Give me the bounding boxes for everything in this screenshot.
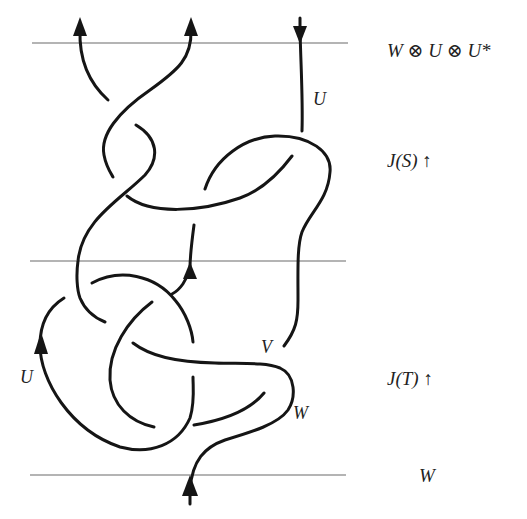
strand-trefoil-lower (194, 393, 264, 425)
label-bottom-space: W (419, 466, 435, 485)
strand-left-loop (40, 298, 193, 450)
label-lower-tangle: J(T) ↑ (387, 369, 433, 388)
label-top-space: W ⊗ U ⊗ U* (387, 41, 491, 60)
label-strand-u-upper: U (313, 90, 326, 108)
arrow-up-icon (34, 332, 48, 354)
label-strand-w: W (293, 404, 308, 422)
strand-top-right (300, 30, 302, 131)
arrow-up-icon (183, 262, 197, 279)
arrow-up-icon (73, 17, 87, 36)
strand-braid-right (77, 125, 155, 322)
strand-trefoil-inner (110, 302, 154, 427)
label-strand-v: V (261, 338, 272, 356)
strand-top-left (80, 30, 108, 100)
strand-right-loop (205, 136, 330, 346)
strand-top-middle (103, 30, 191, 177)
arrow-up-icon (184, 17, 198, 36)
tangle-diagram (0, 0, 527, 519)
strand-v-w (133, 343, 293, 490)
label-strand-u-left: U (20, 368, 33, 386)
label-upper-tangle: J(S) ↑ (387, 151, 432, 170)
